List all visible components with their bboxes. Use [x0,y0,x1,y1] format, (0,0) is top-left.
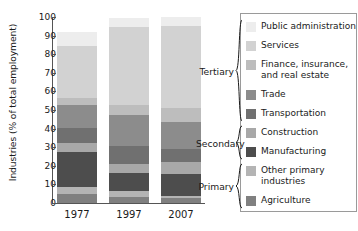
bar-segment [109,173,149,191]
legend-label: Construction [261,127,318,138]
legend-swatch [246,196,256,206]
legend-swatch [246,22,256,32]
legend-item: Manufacturing [246,146,326,157]
y-tick-label: 80 [16,49,56,59]
bar-segment [161,162,201,174]
stacked-bar [57,17,97,203]
bar-segment [161,26,201,108]
legend-swatch [246,60,256,70]
legend-label: Transportation [261,108,326,119]
x-axis-line [52,203,205,204]
legend-group-label: Tertiary [196,65,234,76]
legend-label: Other primary industries [261,165,325,186]
bar-segment [57,32,97,46]
plot-area: Industries (% of total employment) 01020… [0,0,215,231]
legend-item: Public administration [246,21,356,32]
chart-figure: Industries (% of total employment) 01020… [0,0,358,231]
legend-item: Agriculture [246,195,311,206]
legend-item: Trade [246,89,286,100]
legend-label: Agriculture [261,195,311,206]
x-tick-label: 1997 [105,209,153,220]
y-tick-label: 30 [16,142,56,152]
bar-group [53,17,205,203]
legend-swatch [246,147,256,157]
legend-group-label: Secondary [196,137,234,148]
stacked-bar [109,17,149,203]
y-tick-label: 100 [16,12,56,22]
legend-group-brace [235,163,243,209]
y-tick-label: 40 [16,124,56,134]
legend-label: Public administration [261,21,356,32]
legend-label: Services [261,40,299,51]
legend-item: Finance, insurance, and real estate [246,59,348,80]
y-tick-mark [53,203,56,204]
legend-group-brace [235,125,243,160]
bar-segment [161,149,201,162]
bar-segment [161,122,201,149]
legend-swatch [246,41,256,51]
bar-segment [161,108,201,122]
legend-swatch [246,166,256,176]
legend-item: Construction [246,127,318,138]
bar-segment [161,198,201,203]
y-tick-label: 60 [16,86,56,96]
bar-segment [109,197,149,204]
y-tick-label: 90 [16,31,56,41]
legend-item: Services [246,40,299,51]
y-tick-label: 50 [16,105,56,115]
bar-segment [57,46,97,98]
y-tick-label: 20 [16,161,56,171]
legend-swatch [246,109,256,119]
legend-swatch [246,90,256,100]
bar-segment [161,174,201,195]
bar-segment [109,115,149,147]
bar-segment [109,164,149,173]
bar-segment [57,143,97,152]
axis-wrapper: 0102030405060708090100 197719972007 [16,14,206,204]
bar-segment [109,105,149,114]
bar-segment [109,146,149,164]
bar-segment [161,17,201,26]
bar-segment [57,152,97,187]
bar-segment [109,27,149,105]
y-tick-label: 0 [16,198,56,208]
y-tick-label: 10 [16,179,56,189]
bar-segment [57,194,97,203]
stacked-bar [161,17,201,203]
y-tick-label: 70 [16,68,56,78]
legend-label: Finance, insurance, and real estate [261,59,348,80]
legend-label: Trade [261,89,286,100]
legend-group-brace [235,19,243,122]
bar-segment [109,18,149,27]
legend-item: Transportation [246,108,326,119]
x-tick-label: 1977 [53,209,101,220]
legend: Public administrationServicesFinance, in… [196,10,358,220]
legend-swatch [246,128,256,138]
legend-group-label: Primary [196,181,234,192]
legend-label: Manufacturing [261,146,326,157]
legend-item: Other primary industries [246,165,325,186]
bar-segment [57,98,97,105]
bar-segment [57,105,97,127]
bar-segment [57,128,97,143]
